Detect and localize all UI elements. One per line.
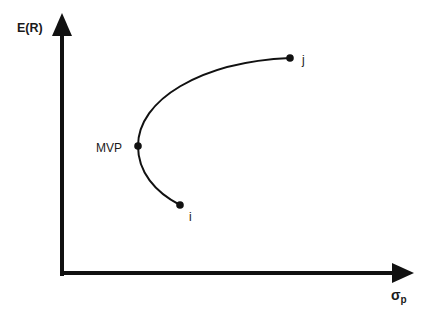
frontier-diagram: E(R) MVP i j σp [0,0,426,313]
x-axis-arrowhead-icon [392,263,414,283]
y-axis-label: E(R) [17,21,43,35]
x-axis-label-symbol: σ [391,287,401,303]
point-i-marker [176,201,184,209]
x-axis-label-subscript: p [401,294,407,305]
point-j-label: j [301,53,305,67]
point-i-label: i [189,210,192,224]
x-axis-label: σp [391,287,407,305]
point-mvp-label: MVP [96,141,122,155]
y-axis-arrowhead-icon [52,13,72,36]
point-j-marker [286,54,294,62]
point-mvp-marker [134,142,142,150]
frontier-curve [138,58,290,205]
